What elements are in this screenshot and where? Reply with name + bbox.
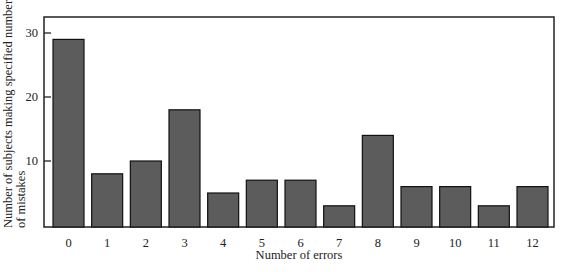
bar-0: [53, 39, 84, 227]
bar-5: [246, 180, 277, 227]
x-axis-label: Number of errors: [0, 248, 568, 263]
bar-7: [324, 206, 355, 227]
bar-10: [440, 187, 471, 227]
y-axis-label-line-2: of mistakes: [15, 13, 28, 228]
bar-6: [285, 180, 316, 227]
bar-1: [92, 174, 123, 227]
bar-chart: 0123456789101112102030 Number of subject…: [0, 0, 568, 272]
bar-8: [362, 135, 393, 227]
bar-2: [130, 161, 161, 227]
bar-11: [478, 206, 509, 227]
bar-12: [517, 187, 548, 227]
bar-3: [169, 110, 200, 227]
bar-4: [208, 193, 239, 227]
bar-9: [401, 187, 432, 227]
plot-area: 0123456789101112102030: [0, 0, 568, 272]
y-axis-label: Number of subjects making specified numb…: [2, 13, 28, 228]
